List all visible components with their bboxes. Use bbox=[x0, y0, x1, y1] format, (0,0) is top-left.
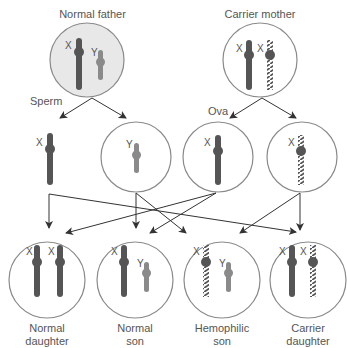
svg-text:X: X bbox=[65, 40, 72, 51]
svg-text:X: X bbox=[48, 246, 55, 257]
offspring-normal-daughter: X X bbox=[9, 242, 85, 318]
father-cell: X Y bbox=[50, 23, 124, 97]
offspring-label-carrier-daughter: Carrier daughter bbox=[272, 322, 344, 348]
offspring-label-normal-daughter: Normal daughter bbox=[12, 322, 82, 348]
svg-text:X: X bbox=[111, 246, 118, 257]
svg-text:X: X bbox=[193, 246, 200, 257]
svg-text:Y: Y bbox=[137, 258, 144, 269]
inheritance-diagram: X Y X X X Y X X bbox=[0, 0, 347, 348]
svg-text:X: X bbox=[36, 137, 43, 148]
fertilization-arrows bbox=[49, 193, 300, 233]
svg-text:Y: Y bbox=[126, 139, 133, 150]
offspring-hemophilic-son: X Y bbox=[184, 242, 260, 318]
sperm-y: Y bbox=[101, 122, 171, 192]
svg-text:Y: Y bbox=[219, 258, 226, 269]
svg-text:X: X bbox=[26, 246, 33, 257]
ovum-hemophilia-x: X bbox=[267, 122, 337, 192]
mother-cell: X X bbox=[223, 23, 297, 97]
svg-text:X: X bbox=[279, 246, 286, 257]
svg-text:X: X bbox=[257, 43, 264, 54]
svg-text:Y: Y bbox=[91, 47, 98, 58]
offspring-label-normal-son: Normal son bbox=[100, 322, 170, 348]
svg-text:X: X bbox=[236, 43, 243, 54]
ova-label: Ova bbox=[208, 105, 228, 118]
father-label: Normal father bbox=[55, 8, 130, 21]
svg-text:X: X bbox=[300, 246, 307, 257]
ovum-normal-x: X bbox=[183, 122, 253, 192]
sperm-label: Sperm bbox=[30, 95, 62, 108]
offspring-carrier-daughter: X X bbox=[270, 242, 346, 318]
mother-label: Carrier mother bbox=[220, 8, 300, 21]
svg-text:X: X bbox=[204, 137, 211, 148]
svg-text:X: X bbox=[288, 137, 295, 148]
sperm-x: X bbox=[36, 133, 55, 185]
offspring-normal-son: X Y bbox=[97, 242, 173, 318]
offspring-label-hemophilic-son: Hemophilic son bbox=[186, 322, 258, 348]
